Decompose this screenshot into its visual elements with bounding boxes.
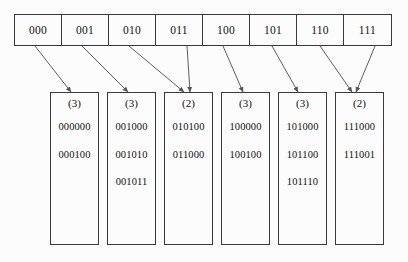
bucket-key: 101000 (286, 122, 318, 133)
diagram-canvas: 000 001 010 011 100 101 110 111 (3) 0000… (0, 0, 408, 262)
bucket-key-list: 111000 111001 (344, 122, 375, 177)
bucket-key: 000100 (58, 150, 90, 161)
directory-row: 000 001 010 011 100 101 110 111 (14, 14, 392, 46)
pointer-arrow-011 (187, 46, 190, 92)
pointer-arrow-000 (35, 46, 71, 92)
pointer-arrow-001 (82, 46, 128, 92)
directory-cell-111[interactable]: 111 (344, 15, 391, 45)
directory-cell-010[interactable]: 010 (109, 15, 156, 45)
bucket-key: 001000 (115, 122, 147, 133)
bucket-0[interactable]: (3) 000000 000100 (50, 92, 99, 245)
pointer-arrow-111 (356, 46, 375, 92)
directory-cell-label: 110 (311, 24, 329, 36)
bucket-key: 111001 (344, 150, 375, 161)
bucket-local-depth: (2) (182, 98, 195, 109)
directory-cell-011[interactable]: 011 (156, 15, 203, 45)
bucket-key-list: 010100 011000 (172, 122, 204, 177)
directory-cell-101[interactable]: 101 (250, 15, 297, 45)
directory-cell-label: 111 (359, 24, 376, 36)
bucket-2[interactable]: (2) 010100 011000 (164, 92, 213, 245)
bucket-key: 010100 (172, 122, 204, 133)
bucket-key: 001011 (116, 177, 148, 188)
directory-cell-label: 010 (123, 24, 141, 36)
bucket-3[interactable]: (3) 100000 100100 (221, 92, 270, 245)
directory-cell-label: 011 (170, 24, 188, 36)
bucket-key: 101100 (287, 150, 319, 161)
bucket-local-depth: (3) (68, 98, 81, 109)
bucket-key-list: 100000 100100 (229, 122, 261, 177)
bucket-key: 011000 (173, 150, 205, 161)
bucket-key: 101110 (287, 177, 318, 188)
bucket-key: 111000 (344, 122, 375, 133)
directory-cell-label: 101 (264, 24, 282, 36)
bucket-local-depth: (3) (239, 98, 252, 109)
directory-cell-110[interactable]: 110 (297, 15, 344, 45)
bucket-key-list: 000000 000100 (58, 122, 90, 177)
directory-cell-100[interactable]: 100 (203, 15, 250, 45)
bucket-local-depth: (3) (125, 98, 138, 109)
bucket-key: 001010 (115, 150, 147, 161)
bucket-key-list: 001000 001010 001011 (115, 122, 147, 205)
pointer-arrow-110 (320, 46, 352, 92)
directory-cell-label: 001 (76, 24, 94, 36)
bucket-local-depth: (2) (353, 98, 366, 109)
pointer-arrow-100 (223, 46, 243, 92)
bucket-key: 100100 (229, 150, 261, 161)
directory-cell-000[interactable]: 000 (15, 15, 62, 45)
directory-cell-001[interactable]: 001 (62, 15, 109, 45)
bucket-local-depth: (3) (296, 98, 309, 109)
bucket-5[interactable]: (2) 111000 111001 (335, 92, 384, 245)
directory-cell-label: 100 (217, 24, 235, 36)
pointer-arrow-101 (272, 46, 298, 92)
directory-cell-label: 000 (29, 24, 47, 36)
bucket-4[interactable]: (3) 101000 101100 101110 (278, 92, 327, 245)
bucket-key: 000000 (58, 122, 90, 133)
pointer-arrow-010 (129, 46, 184, 92)
bucket-key: 100000 (229, 122, 261, 133)
bucket-key-list: 101000 101100 101110 (286, 122, 318, 205)
bucket-1[interactable]: (3) 001000 001010 001011 (107, 92, 156, 245)
